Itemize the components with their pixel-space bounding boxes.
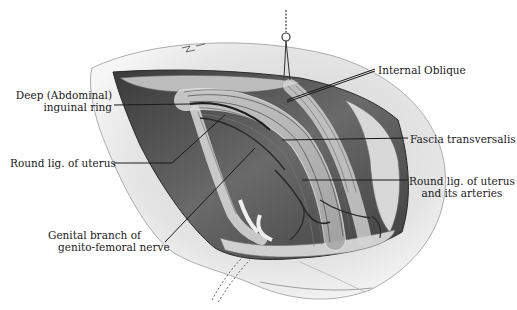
anatomical-illustration <box>0 0 517 310</box>
label-fascia-transversalis: Fascia transversalis <box>410 133 516 145</box>
label-line: Genital branch of <box>48 229 170 241</box>
label-internal-oblique: Internal Oblique <box>378 64 466 76</box>
label-line: genito-femoral nerve <box>48 241 170 253</box>
label-line: Round lig. of uterus <box>409 175 515 187</box>
label-line: inguinal ring <box>2 101 112 113</box>
label-line: and its arteries <box>409 187 515 199</box>
label-round-ligament: Round lig. of uterus <box>10 157 116 169</box>
label-line: Deep (Abdominal) <box>2 89 112 101</box>
label-deep-inguinal-ring: Deep (Abdominal) inguinal ring <box>2 89 112 113</box>
label-round-ligament-arteries: Round lig. of uterus and its arteries <box>409 175 515 199</box>
label-genital-branch: Genital branch of genito-femoral nerve <box>48 229 170 253</box>
label-line: Internal Oblique <box>378 64 466 76</box>
label-line: Round lig. of uterus <box>10 157 116 169</box>
label-line: Fascia transversalis <box>410 133 516 145</box>
